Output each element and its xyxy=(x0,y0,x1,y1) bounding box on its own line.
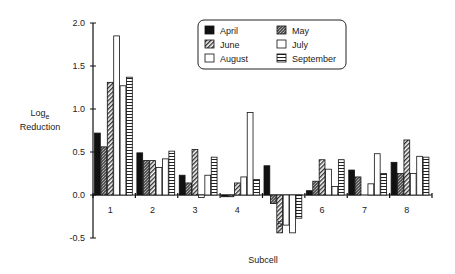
bar-may-subcell-2 xyxy=(143,161,149,195)
bar-september-subcell-2 xyxy=(169,151,175,195)
legend-label-july: July xyxy=(292,40,309,50)
bar-august-subcell-5 xyxy=(290,195,296,233)
bar-july-subcell-6 xyxy=(326,169,332,195)
bar-april-subcell-1 xyxy=(95,133,101,195)
bar-april-subcell-8 xyxy=(391,162,397,195)
bar-june-subcell-6 xyxy=(319,160,325,195)
y-axis-title: Loge xyxy=(31,108,50,120)
legend-swatch-april xyxy=(205,26,214,34)
bar-july-subcell-5 xyxy=(283,195,289,225)
legend-swatch-july xyxy=(277,40,286,48)
bar-august-subcell-6 xyxy=(332,186,338,195)
bar-may-subcell-8 xyxy=(398,174,404,196)
legend-swatch-september xyxy=(277,54,286,62)
x-tick-label: 7 xyxy=(362,205,367,215)
bar-chart: 2.01.51.00.50.0-0.512345678SubcellLogeRe… xyxy=(0,0,455,274)
bar-july-subcell-1 xyxy=(114,36,120,195)
bar-june-subcell-1 xyxy=(107,82,113,195)
bar-july-subcell-8 xyxy=(410,174,416,196)
bar-june-subcell-4 xyxy=(234,183,240,195)
x-tick-label: 2 xyxy=(150,205,155,215)
bar-september-subcell-5 xyxy=(296,195,302,218)
bar-august-subcell-7 xyxy=(374,154,380,195)
bar-june-subcell-3 xyxy=(192,149,198,195)
bar-april-subcell-3 xyxy=(179,175,185,195)
bar-may-subcell-3 xyxy=(186,183,192,195)
bar-september-subcell-8 xyxy=(423,157,429,195)
legend-swatch-may xyxy=(277,26,286,34)
x-axis-title: Subcell xyxy=(248,255,278,265)
bar-september-subcell-7 xyxy=(381,174,387,196)
bar-april-subcell-5 xyxy=(264,166,270,195)
x-tick-label: 1 xyxy=(108,205,113,215)
bar-september-subcell-6 xyxy=(338,160,344,195)
legend-label-september: September xyxy=(292,54,336,64)
bar-july-subcell-4 xyxy=(241,177,247,195)
bar-april-subcell-6 xyxy=(306,191,312,195)
y-tick-label: 1.0 xyxy=(72,104,85,114)
bar-july-subcell-7 xyxy=(368,184,374,195)
x-tick-label: 4 xyxy=(235,205,240,215)
bar-may-subcell-6 xyxy=(313,181,319,195)
bar-may-subcell-1 xyxy=(101,147,107,195)
bar-august-subcell-3 xyxy=(205,175,211,195)
bar-september-subcell-1 xyxy=(127,77,133,195)
bar-june-subcell-8 xyxy=(404,140,410,195)
bar-may-subcell-4 xyxy=(228,195,234,197)
bar-april-subcell-7 xyxy=(349,170,355,195)
bar-august-subcell-4 xyxy=(247,112,253,195)
legend-swatch-june xyxy=(205,40,214,48)
bar-august-subcell-1 xyxy=(120,86,126,195)
x-tick-label: 6 xyxy=(320,205,325,215)
y-tick-label: 0.0 xyxy=(72,190,85,200)
y-tick-label: 1.5 xyxy=(72,61,85,71)
x-tick-label: 3 xyxy=(192,205,197,215)
legend-label-may: May xyxy=(292,26,310,36)
legend-label-june: June xyxy=(220,40,240,50)
legend-label-april: April xyxy=(220,26,238,36)
bar-august-subcell-8 xyxy=(417,156,423,195)
legend: AprilMayJuneJulyAugustSeptember xyxy=(198,20,346,69)
bar-august-subcell-2 xyxy=(162,159,168,195)
bar-april-subcell-2 xyxy=(137,153,143,195)
y-tick-label: 2.0 xyxy=(72,18,85,28)
bar-june-subcell-2 xyxy=(150,161,156,195)
y-tick-label: 0.5 xyxy=(72,147,85,157)
y-axis-title-line2: Reduction xyxy=(20,122,61,132)
bar-september-subcell-3 xyxy=(211,157,217,195)
bar-july-subcell-2 xyxy=(156,167,162,195)
bar-may-subcell-7 xyxy=(355,177,361,195)
legend-swatch-august xyxy=(205,54,214,62)
legend-label-august: August xyxy=(220,54,249,64)
x-tick-label: 8 xyxy=(404,205,409,215)
bar-july-subcell-3 xyxy=(198,195,204,198)
y-tick-label: -0.5 xyxy=(69,233,85,243)
bar-may-subcell-5 xyxy=(270,195,276,204)
bar-september-subcell-4 xyxy=(254,180,260,195)
x-tick-label: 5 xyxy=(277,219,282,229)
bar-april-subcell-4 xyxy=(222,195,228,197)
